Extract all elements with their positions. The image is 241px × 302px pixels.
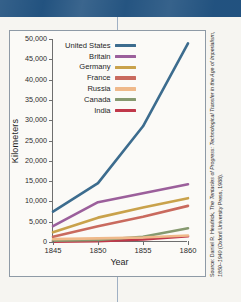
- y-axis-tick-label: 25,000: [25, 137, 47, 144]
- y-axis-tick: [49, 181, 53, 182]
- y-axis-tick-label: 10,000: [25, 198, 47, 205]
- x-axis-tick: [98, 241, 99, 245]
- y-axis-tick: [49, 141, 53, 142]
- figure-box: Kilometers 05,00010,00015,00020,00025,00…: [9, 30, 206, 277]
- y-axis-tick: [49, 120, 53, 121]
- legend-item[interactable]: India: [65, 106, 136, 115]
- x-axis-tick-label: 1860: [180, 247, 197, 255]
- legend-item[interactable]: Canada: [65, 95, 136, 104]
- legend-color-swatch: [115, 98, 136, 101]
- source-prefix: Source:: [209, 257, 215, 277]
- legend-color-swatch: [115, 44, 136, 47]
- y-axis-tick: [49, 201, 53, 202]
- source-publisher: (Oxford University Press, 1988).: [217, 174, 223, 249]
- legend-color-swatch: [115, 66, 136, 69]
- legend-item-label: India: [94, 107, 110, 115]
- legend-item[interactable]: Britain: [65, 52, 136, 61]
- y-axis-title: Kilometers: [10, 118, 20, 163]
- series-line: [53, 184, 188, 226]
- y-axis-tick-label: 5,000: [29, 218, 47, 225]
- y-axis-tick-label: 15,000: [25, 177, 47, 184]
- legend-item-label: Germany: [79, 63, 110, 71]
- y-axis-tick-label: 0: [43, 238, 47, 245]
- legend-item[interactable]: France: [65, 73, 136, 82]
- y-axis-tick-label: 35,000: [25, 96, 47, 103]
- legend-color-swatch: [115, 55, 136, 58]
- top-banner-sheen: [0, 0, 241, 17]
- y-axis-tick: [49, 161, 53, 162]
- page-root: Kilometers 05,00010,00015,00020,00025,00…: [0, 0, 241, 302]
- x-axis-title: Year: [52, 257, 187, 267]
- legend: United StatesBritainGermanyFranceRussiaC…: [65, 41, 136, 115]
- legend-item[interactable]: United States: [65, 41, 136, 50]
- x-axis-tick: [53, 241, 54, 245]
- y-axis-tick: [49, 39, 53, 40]
- top-banner: [0, 0, 241, 17]
- source-author: Daniel R. Headrick,: [209, 210, 215, 257]
- y-axis-tick: [49, 222, 53, 223]
- legend-color-swatch: [115, 76, 136, 79]
- legend-item-label: Canada: [84, 96, 111, 104]
- y-axis-tick-label: 20,000: [25, 157, 47, 164]
- x-axis-tick: [188, 241, 189, 245]
- y-axis-tick-label: 40,000: [25, 76, 47, 83]
- legend-item[interactable]: Germany: [65, 63, 136, 72]
- y-axis-tick-label: 30,000: [25, 117, 47, 124]
- y-axis-tick-label: 45,000: [25, 56, 47, 63]
- legend-item-label: Britain: [89, 53, 111, 61]
- source-note: Source: Daniel R. Headrick, The Tentacle…: [209, 30, 231, 277]
- legend-color-swatch: [115, 87, 136, 90]
- x-axis-tick-label: 1850: [90, 247, 107, 255]
- x-axis-tick-label: 1845: [45, 247, 62, 255]
- y-axis-tick: [49, 59, 53, 60]
- x-axis-tick-label: 1855: [135, 247, 152, 255]
- legend-item-label: France: [87, 74, 111, 82]
- y-axis-tick-label: 50,000: [25, 35, 47, 42]
- legend-item-label: Russia: [87, 85, 110, 93]
- legend-item[interactable]: Russia: [65, 84, 136, 93]
- legend-item-label: United States: [65, 42, 111, 50]
- legend-color-swatch: [115, 109, 136, 112]
- y-axis-tick: [49, 80, 53, 81]
- x-axis-tick: [143, 241, 144, 245]
- y-axis-tick: [49, 100, 53, 101]
